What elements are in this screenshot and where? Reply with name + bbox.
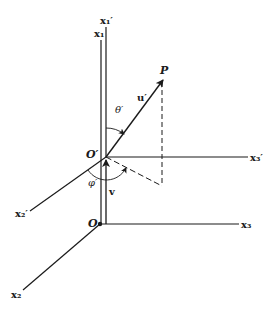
origin-dot (98, 222, 102, 226)
label-x1: x₁ (94, 28, 104, 39)
x2-axis (23, 224, 100, 290)
label-x2-prime: x₂′ (15, 208, 28, 219)
theta-angle-arc (106, 128, 124, 134)
label-vector-v: v (108, 186, 116, 197)
label-origin-prime: O′ (86, 148, 99, 161)
label-x3: x₃ (241, 219, 251, 230)
label-x3-prime: x₃′ (250, 152, 263, 163)
label-vector-u-prime: u′ (137, 92, 147, 103)
label-x2: x₂ (11, 289, 21, 300)
label-origin: O (88, 217, 98, 230)
vector-u-prime (106, 80, 163, 157)
coordinate-diagram: x₁′ x₁ x₃′ x₃ x₂′ x₂ O O′ P u′ v θ′ φ′ (0, 0, 273, 316)
label-theta: θ′ (115, 104, 124, 115)
label-point-p: P (159, 64, 169, 77)
label-phi: φ′ (88, 177, 98, 188)
label-x1-prime: x₁′ (100, 15, 113, 26)
projection-base-line (106, 157, 162, 186)
